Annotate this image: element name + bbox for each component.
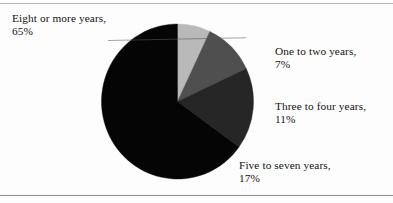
slice-label-text: Eight or more years, bbox=[12, 12, 106, 24]
slice-label-five-to-seven-years: Five to seven years, 17% bbox=[239, 159, 331, 186]
slice-label-text: Three to four years, bbox=[275, 100, 366, 112]
slice-label-percent: 17% bbox=[239, 172, 331, 185]
slice-label-percent: 11% bbox=[275, 113, 366, 126]
slice-label-text: One to two years, bbox=[275, 45, 356, 57]
slice-label-three-to-four-years: Three to four years, 11% bbox=[275, 100, 366, 127]
slice-label-eight-or-more-years: Eight or more years, 65% bbox=[12, 12, 106, 39]
slice-label-one-to-two-years: One to two years, 7% bbox=[275, 45, 356, 72]
slice-label-percent: 65% bbox=[12, 25, 106, 38]
cutoff-caption bbox=[6, 196, 266, 203]
slice-label-percent: 7% bbox=[275, 58, 356, 71]
top-divider-rule bbox=[0, 3, 393, 4]
pie-chart-figure: Eight or more years, 65% One to two year… bbox=[0, 0, 393, 203]
pie-chart bbox=[100, 23, 255, 180]
slice-label-text: Five to seven years, bbox=[239, 159, 331, 171]
pie-svg bbox=[100, 23, 255, 180]
